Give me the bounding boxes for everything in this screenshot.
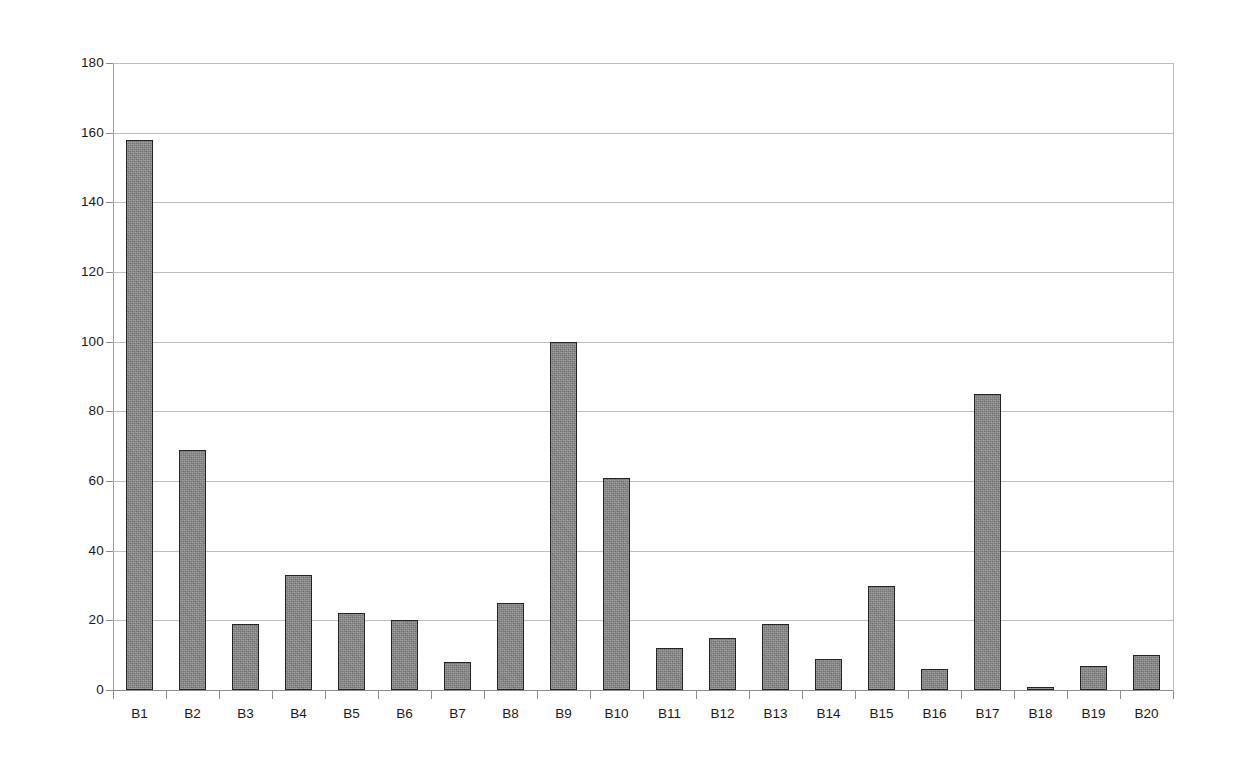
x-tick-label: B1	[113, 707, 166, 721]
x-tick-label: B11	[643, 707, 696, 721]
plot-right-edge	[1173, 63, 1174, 691]
x-tick-label: B2	[166, 707, 219, 721]
bar	[921, 669, 948, 690]
gridline	[113, 551, 1173, 552]
bar	[1080, 666, 1107, 690]
x-tick-mark	[325, 691, 326, 699]
y-tick-mark	[106, 63, 113, 64]
y-tick-label: 100	[44, 335, 104, 349]
bar	[1027, 687, 1054, 690]
x-tick-mark	[908, 691, 909, 699]
x-tick-label: B3	[219, 707, 272, 721]
x-tick-label: B13	[749, 707, 802, 721]
x-tick-mark	[961, 691, 962, 699]
x-tick-mark	[537, 691, 538, 699]
x-tick-mark	[802, 691, 803, 699]
bar	[232, 624, 259, 690]
y-tick-label: 60	[44, 474, 104, 488]
plot-area	[113, 63, 1173, 690]
y-tick-mark	[106, 690, 113, 691]
bar	[391, 620, 418, 690]
y-tick-mark	[106, 481, 113, 482]
x-tick-mark	[1120, 691, 1121, 699]
bar	[338, 613, 365, 690]
bar	[974, 394, 1001, 690]
x-tick-label: B18	[1014, 707, 1067, 721]
y-tick-mark	[106, 620, 113, 621]
x-tick-mark	[696, 691, 697, 699]
bar	[550, 342, 577, 690]
x-tick-mark	[378, 691, 379, 699]
x-tick-mark	[272, 691, 273, 699]
x-tick-mark	[219, 691, 220, 699]
bar-chart: 020406080100120140160180 B1B2B3B4B5B6B7B…	[0, 0, 1233, 766]
x-tick-mark	[166, 691, 167, 699]
y-tick-mark	[106, 202, 113, 203]
gridline	[113, 411, 1173, 412]
gridline	[113, 620, 1173, 621]
y-tick-label: 40	[44, 544, 104, 558]
x-tick-mark	[1067, 691, 1068, 699]
x-tick-label: B14	[802, 707, 855, 721]
bar	[762, 624, 789, 690]
x-tick-label: B7	[431, 707, 484, 721]
y-tick-mark	[106, 411, 113, 412]
y-tick-label: 0	[44, 683, 104, 697]
y-tick-label: 120	[44, 265, 104, 279]
bar	[444, 662, 471, 690]
y-tick-label: 160	[44, 126, 104, 140]
gridline	[113, 133, 1173, 134]
x-tick-mark	[113, 691, 114, 699]
gridline	[113, 202, 1173, 203]
y-tick-label: 20	[44, 613, 104, 627]
x-tick-label: B15	[855, 707, 908, 721]
x-tick-mark	[749, 691, 750, 699]
x-tick-label: B12	[696, 707, 749, 721]
y-tick-label: 80	[44, 404, 104, 418]
x-tick-mark	[431, 691, 432, 699]
bar	[179, 450, 206, 690]
y-tick-mark	[106, 272, 113, 273]
x-tick-mark	[1173, 691, 1174, 699]
x-tick-mark	[855, 691, 856, 699]
bar	[868, 586, 895, 691]
gridline	[113, 63, 1173, 64]
bar	[497, 603, 524, 690]
x-tick-label: B9	[537, 707, 590, 721]
y-tick-mark	[106, 133, 113, 134]
x-tick-mark	[484, 691, 485, 699]
x-tick-mark	[1014, 691, 1015, 699]
bar	[815, 659, 842, 690]
bar	[603, 478, 630, 690]
bar	[1133, 655, 1160, 690]
gridline	[113, 481, 1173, 482]
x-tick-mark	[643, 691, 644, 699]
bar	[656, 648, 683, 690]
bar	[126, 140, 153, 690]
x-tick-label: B4	[272, 707, 325, 721]
x-tick-mark	[590, 691, 591, 699]
y-tick-mark	[106, 342, 113, 343]
y-tick-mark	[106, 551, 113, 552]
x-tick-label: B6	[378, 707, 431, 721]
x-tick-label: B5	[325, 707, 378, 721]
x-tick-label: B16	[908, 707, 961, 721]
x-tick-label: B20	[1120, 707, 1173, 721]
y-tick-label: 140	[44, 195, 104, 209]
x-tick-label: B10	[590, 707, 643, 721]
y-tick-label: 180	[44, 56, 104, 70]
x-tick-label: B19	[1067, 707, 1120, 721]
x-tick-label: B17	[961, 707, 1014, 721]
bar	[285, 575, 312, 690]
gridline	[113, 272, 1173, 273]
gridline	[113, 342, 1173, 343]
bar	[709, 638, 736, 690]
x-tick-label: B8	[484, 707, 537, 721]
